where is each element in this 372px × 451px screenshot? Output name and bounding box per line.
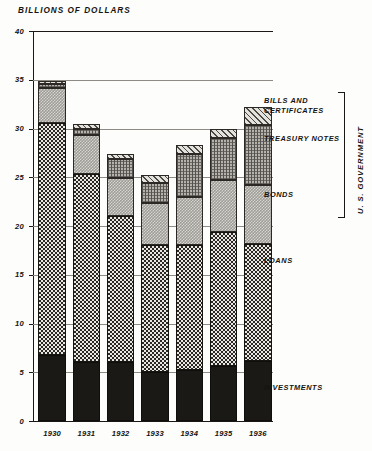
bar-segment-investments-1933 — [141, 372, 169, 421]
y-tick-mark-25 — [29, 177, 33, 178]
bar-segment-treasury-notes-1930 — [38, 84, 66, 88]
bar-segment-bills-and-certificates-1930 — [38, 81, 66, 84]
bar-segment-loans-1930 — [38, 123, 66, 355]
bar-segment-bonds-1933 — [141, 203, 169, 246]
y-tick-label-15: 15 — [2, 270, 24, 279]
x-tick-label-1933: 1933 — [137, 429, 173, 438]
bar-segment-treasury-notes-1932 — [107, 159, 135, 179]
legend-label-loans: LOANS — [264, 256, 293, 266]
bar-segment-investments-1934 — [176, 370, 204, 421]
y-tick-label-25: 25 — [2, 173, 24, 182]
y-tick-mark-35 — [29, 80, 33, 81]
y-tick-mark-30 — [29, 129, 33, 130]
y-tick-label-0: 0 — [2, 417, 24, 426]
bar-segment-investments-1930 — [38, 355, 66, 421]
us-government-bracket — [338, 92, 345, 218]
y-tick-label-20: 20 — [2, 222, 24, 231]
bar-segment-loans-1934 — [176, 245, 204, 371]
y-tick-mark-40 — [29, 31, 33, 32]
legend-label-treasury-notes: TREASURY NOTES — [264, 134, 340, 144]
bar-1930 — [38, 81, 66, 421]
x-tick-label-1935: 1935 — [206, 429, 242, 438]
y-tick-label-40: 40 — [2, 27, 24, 36]
us-government-label: U. S. GOVERNMENT — [356, 126, 365, 214]
chart-canvas: BILLIONS OF DOLLARS 0510152025303540 193… — [0, 0, 372, 451]
x-tick-label-1930: 1930 — [34, 429, 70, 438]
x-tick-label-1932: 1932 — [103, 429, 139, 438]
y-tick-mark-10 — [29, 324, 33, 325]
bar-segment-treasury-notes-1933 — [141, 183, 169, 203]
bar-segment-loans-1931 — [73, 174, 101, 361]
y-tick-mark-0 — [29, 421, 33, 422]
y-tick-label-35: 35 — [2, 75, 24, 84]
y-tick-label-5: 5 — [2, 368, 24, 377]
bar-1933 — [141, 175, 169, 421]
bar-segment-bills-and-certificates-1932 — [107, 154, 135, 159]
bar-segment-treasury-notes-1934 — [176, 154, 204, 197]
bar-segment-bonds-1935 — [210, 180, 238, 232]
gridline-35 — [33, 80, 273, 81]
bar-segment-treasury-notes-1935 — [210, 138, 238, 180]
bar-segment-treasury-notes-1931 — [73, 129, 101, 136]
x-axis-line — [33, 421, 273, 422]
bar-segment-loans-1932 — [107, 216, 135, 362]
legend-label-investments: INVESTMENTS — [264, 383, 323, 393]
x-tick-label-1936: 1936 — [240, 429, 276, 438]
x-tick-label-1931: 1931 — [69, 429, 105, 438]
bar-segment-bills-and-certificates-1935 — [210, 129, 238, 139]
bar-segment-bonds-1930 — [38, 88, 66, 123]
bar-segment-investments-1935 — [210, 366, 238, 421]
bar-segment-loans-1933 — [141, 245, 169, 372]
bar-1931 — [73, 124, 101, 421]
bar-segment-bills-and-certificates-1934 — [176, 145, 204, 154]
bar-segment-bills-and-certificates-1933 — [141, 175, 169, 183]
y-tick-label-30: 30 — [2, 124, 24, 133]
bar-segment-bonds-1934 — [176, 197, 204, 245]
bar-1935 — [210, 129, 238, 422]
bar-segment-bills-and-certificates-1931 — [73, 124, 101, 129]
legend-label-bonds: BONDS — [264, 190, 293, 200]
gridline-40 — [33, 31, 273, 32]
bar-segment-investments-1931 — [73, 362, 101, 421]
y-tick-mark-20 — [29, 226, 33, 227]
bar-segment-bonds-1931 — [73, 135, 101, 174]
legend-label-bills: BILLS AND CERTIFICATES — [264, 96, 324, 116]
bar-segment-loans-1935 — [210, 232, 238, 367]
y-tick-mark-15 — [29, 275, 33, 276]
bar-segment-bonds-1932 — [107, 178, 135, 216]
bar-segment-investments-1932 — [107, 362, 135, 421]
chart-title: BILLIONS OF DOLLARS — [18, 6, 131, 15]
x-tick-label-1934: 1934 — [172, 429, 208, 438]
y-tick-mark-5 — [29, 372, 33, 373]
y-tick-label-10: 10 — [2, 319, 24, 328]
bar-1932 — [107, 154, 135, 421]
bar-1934 — [176, 145, 204, 421]
